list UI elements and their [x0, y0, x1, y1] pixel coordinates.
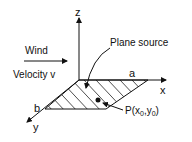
velocity-label: Velocity v	[13, 69, 55, 80]
wind-label: Wind	[25, 45, 48, 56]
point-p-marker	[96, 98, 101, 103]
a-label: a	[129, 67, 136, 79]
y-axis	[27, 80, 79, 122]
y-axis-label: y	[33, 121, 39, 133]
point-p-label: P(x0,y0)	[125, 105, 159, 117]
x-axis-label: x	[160, 84, 166, 96]
plane-source-diagram: z x y a b Wind Velocity v Plane source P…	[0, 0, 192, 142]
b-label: b	[34, 102, 40, 114]
plane-source-label: Plane source	[110, 37, 169, 48]
z-axis-label: z	[75, 6, 81, 18]
